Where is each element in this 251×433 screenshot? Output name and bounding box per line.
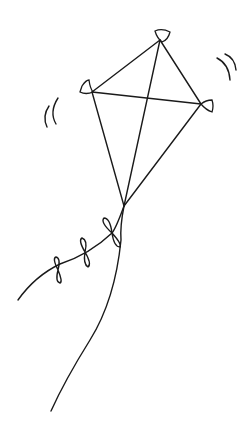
kite-tail [18,206,124,300]
kite-drawing [0,0,251,433]
motion-lines-left [45,98,58,127]
kite-body [92,40,201,206]
motion-lines-right [217,54,236,80]
kite-illustration: Hand-drawn kite with cross spars, bow-ti… [0,0,251,433]
